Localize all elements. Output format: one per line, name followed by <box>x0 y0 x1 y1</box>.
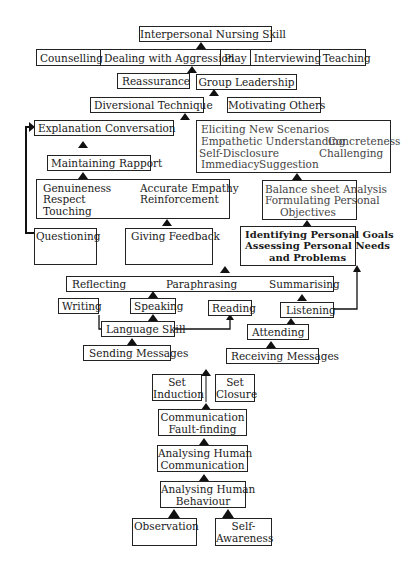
arrow-up-icon <box>222 509 234 518</box>
set-induction-line2: Induction <box>153 388 201 400</box>
conversation-label: Conversation <box>105 122 176 134</box>
arrow-up-icon <box>266 341 276 348</box>
summarising-label: Summarising <box>269 278 340 290</box>
receiving-messages-box: Receiving Messages <box>226 348 319 364</box>
reassurance-label: Reassurance <box>122 75 190 87</box>
set-induction-box: Set Induction <box>152 374 202 401</box>
respect-label: Respect <box>43 193 86 205</box>
diversional-technique-box: Diversional Technique <box>90 97 204 113</box>
self-label: Self- <box>216 520 271 532</box>
arrow-up-icon <box>297 294 307 301</box>
communication-label: Communication <box>158 459 247 471</box>
language-skill-label: Language Skill <box>106 323 186 335</box>
reading-label: Reading <box>212 302 256 314</box>
arrow-up-icon <box>201 369 211 376</box>
group-leadership-box: Group Leadership <box>196 74 297 90</box>
arrow-up-icon <box>196 42 206 49</box>
self-awareness-box: Self- Awareness <box>215 518 272 546</box>
applications-row: Counselling Dealing with Aggression Play… <box>36 49 366 66</box>
eliciting-new-scenarios-label: Eliciting New Scenarios <box>201 123 329 135</box>
listening-box: Listening <box>280 302 334 318</box>
reassurance-box: Reassurance <box>117 73 190 89</box>
communication-label: Communication <box>159 411 246 423</box>
application-interviewing: Interviewing <box>251 50 320 65</box>
problems-label: and Problems <box>269 252 346 264</box>
arrow-up-icon <box>220 266 230 273</box>
writing-box: Writing <box>58 298 99 314</box>
giving-feedback-box: Giving Feedback <box>125 228 213 265</box>
paraphrasing-label: Paraphrasing <box>166 278 237 290</box>
formulating-label: Formulating Personal <box>265 194 380 206</box>
challenging-label: Challenging <box>319 147 383 159</box>
set-closure-box: Set Closure <box>215 374 255 402</box>
balance-sheet-box: Balance sheet Analysis Formulating Perso… <box>262 180 357 220</box>
maintaining-rapport-label: Maintaining Rapport <box>51 157 162 169</box>
listening-label: Listening <box>286 304 336 316</box>
reflecting-row-box: Reflecting Paraphrasing Summarising <box>66 276 334 292</box>
arrow-up-icon <box>148 291 158 298</box>
set-closure-line2: Closure <box>216 388 254 400</box>
application-play: Play <box>221 50 251 65</box>
application-dealing-with-aggression: Dealing with Aggression <box>101 50 221 65</box>
communication-fault-finding-box: Communication Fault-finding <box>158 409 247 436</box>
suggestion-label: Suggestion <box>259 158 319 170</box>
arrow-up-icon <box>187 66 197 73</box>
reinforcement-label: Reinforcement <box>140 193 219 205</box>
explanation-label: Explanation <box>38 122 102 134</box>
objectives-label: Objectives <box>280 206 336 218</box>
identifying-goals-box: Identifying Personal Goals Assessing Per… <box>240 226 356 266</box>
questioning-label: Questioning <box>36 230 100 242</box>
set-closure-line1: Set <box>216 376 254 388</box>
analysing-behaviour-box: Analysing Human Behaviour <box>160 481 246 508</box>
diversional-technique-label: Diversional Technique <box>94 99 213 111</box>
arrow-up-icon <box>180 113 190 120</box>
application-teaching: Teaching <box>320 50 371 65</box>
behaviour-label: Behaviour <box>161 495 245 507</box>
arrow-up-icon <box>78 141 88 148</box>
counselling-skills-box: Eliciting New Scenarios Empathetic Under… <box>196 120 391 173</box>
analysing-human-label: Analysing Human <box>158 447 247 459</box>
maintaining-rapport-box: Maintaining Rapport <box>47 155 151 171</box>
arrow-up-icon <box>209 89 219 96</box>
reflecting-label: Reflecting <box>72 278 126 290</box>
application-counselling: Counselling <box>37 50 101 65</box>
explanation-conversation-box: Explanation Conversation <box>34 120 174 136</box>
questioning-box: Questioning <box>34 228 97 265</box>
sending-messages-label: Sending Messages <box>89 347 188 359</box>
assessing-needs-label: Assessing Personal Needs <box>245 240 390 252</box>
motivating-others-box: Motivating Others <box>227 97 321 113</box>
giving-feedback-label: Giving Feedback <box>131 230 220 242</box>
title-label: Interpersonal Nursing Skill <box>140 28 286 40</box>
sending-messages-box: Sending Messages <box>83 345 171 361</box>
arrow-up-icon <box>78 172 88 179</box>
arrow-up-icon <box>127 338 137 345</box>
analysing-human-label: Analysing Human <box>161 483 245 495</box>
immediacy-label: Immediacy <box>201 158 259 170</box>
observation-box: Observation <box>132 518 197 546</box>
group-leadership-label: Group Leadership <box>198 76 294 88</box>
title-box: Interpersonal Nursing Skill <box>139 26 272 42</box>
arrow-up-icon <box>199 438 209 445</box>
speaking-label: Speaking <box>134 300 184 312</box>
touching-label: Touching <box>43 205 92 217</box>
arrow-up-icon <box>168 509 180 518</box>
motivating-others-label: Motivating Others <box>228 99 325 111</box>
arrow-up-icon <box>199 474 209 481</box>
speaking-box: Speaking <box>130 298 176 314</box>
awareness-label: Awareness <box>216 532 271 544</box>
rapport-skills-box: Genuineness Respect Touching Accurate Em… <box>36 179 230 219</box>
receiving-messages-label: Receiving Messages <box>231 350 339 362</box>
attending-label: Attending <box>252 326 304 338</box>
attending-box: Attending <box>247 324 309 340</box>
reading-box: Reading <box>208 300 252 316</box>
empathetic-understanding-label: Empathetic Understanding <box>201 135 345 147</box>
concreteness-label: Concreteness <box>328 135 400 147</box>
observation-label: Observation <box>134 520 199 532</box>
arrow-up-icon <box>292 173 302 180</box>
arrow-up-icon <box>162 219 172 226</box>
fault-finding-label: Fault-finding <box>159 423 246 435</box>
analysing-communication-box: Analysing Human Communication <box>157 445 248 472</box>
language-skill-box: Language Skill <box>101 321 175 337</box>
writing-label: Writing <box>62 300 102 312</box>
set-induction-line1: Set <box>153 376 201 388</box>
